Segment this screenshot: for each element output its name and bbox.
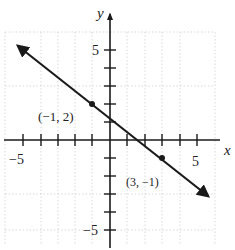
point-label-3-neg1: (3, −1) bbox=[126, 175, 159, 189]
coordinate-plot: y x −5 5 5 −5 (−1, 2) (3, −1) bbox=[0, 0, 235, 250]
x-tick-label-pos5: 5 bbox=[192, 154, 199, 169]
point-3-neg1 bbox=[159, 155, 165, 161]
point-neg1-2 bbox=[89, 101, 95, 107]
x-tick-label-neg5: −5 bbox=[9, 152, 24, 167]
y-tick-label-pos5: 5 bbox=[92, 43, 99, 58]
point-label-neg1-2: (−1, 2) bbox=[38, 109, 74, 124]
x-axis-label: x bbox=[223, 142, 231, 158]
y-tick-label-neg5: −5 bbox=[83, 223, 98, 238]
y-axis-label: y bbox=[95, 5, 104, 21]
